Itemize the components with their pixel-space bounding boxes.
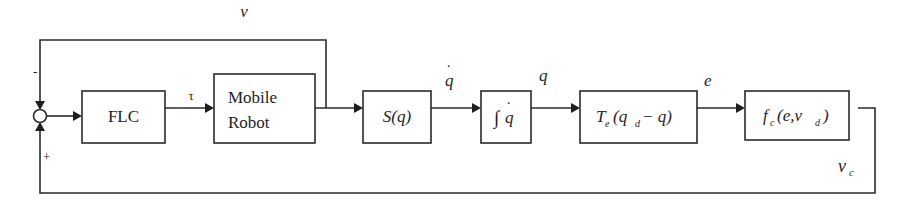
flc-label: FLC <box>108 107 139 126</box>
arrowhead-transform <box>571 103 580 113</box>
plus-sign: + <box>43 149 50 164</box>
tau-label: τ <box>188 88 193 103</box>
arrowhead-robot <box>205 103 214 113</box>
qdot-dot: ˙ <box>446 62 451 79</box>
mobile-robot-block <box>214 74 315 143</box>
transform-rest: − q) <box>642 107 672 126</box>
e-label: e <box>704 71 712 90</box>
fc-open: (e,v <box>777 106 802 125</box>
block-diagram: - + FLC τ Mobile Robot v S(q) q ˙ ∫ q ˙ … <box>0 0 903 207</box>
arrowhead-fc <box>736 103 745 113</box>
vc-label: v <box>838 156 846 176</box>
fc-f-sub: c <box>770 117 775 128</box>
minus-sign: - <box>33 64 37 79</box>
transform-T-sub: e <box>605 118 610 129</box>
q-label: q <box>539 66 548 85</box>
fc-close: ) <box>822 106 829 125</box>
arrowhead-flc <box>73 111 82 121</box>
arrowhead-integral <box>472 103 481 113</box>
robot-label-line2: Robot <box>228 113 270 132</box>
transform-open: (q <box>613 107 628 126</box>
summing-junction <box>34 110 47 123</box>
arrowhead-vc <box>35 122 45 131</box>
robot-label-line1: Mobile <box>228 88 277 107</box>
v-label: v <box>240 2 248 21</box>
arrowhead-v <box>35 101 45 110</box>
arrowhead-s <box>354 103 363 113</box>
vc-label-sub: c <box>849 166 854 178</box>
s-label: S(q) <box>383 107 412 126</box>
integral-arg-dot: ˙ <box>506 99 511 116</box>
